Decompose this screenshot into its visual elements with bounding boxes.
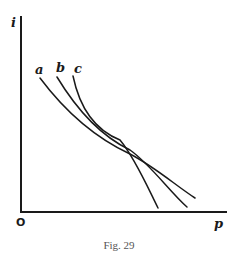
curve-a [40, 78, 195, 198]
figure-diagram: i p O a b c Fig. 29 [0, 0, 238, 261]
curve-c-label: c [74, 61, 82, 76]
origin-label: O [16, 216, 25, 229]
figure-caption: Fig. 29 [103, 239, 135, 251]
curve-a-label: a [35, 62, 43, 77]
x-axis-label: p [214, 216, 223, 231]
curve-b-label: b [56, 60, 65, 75]
y-axis-label: i [11, 15, 16, 30]
